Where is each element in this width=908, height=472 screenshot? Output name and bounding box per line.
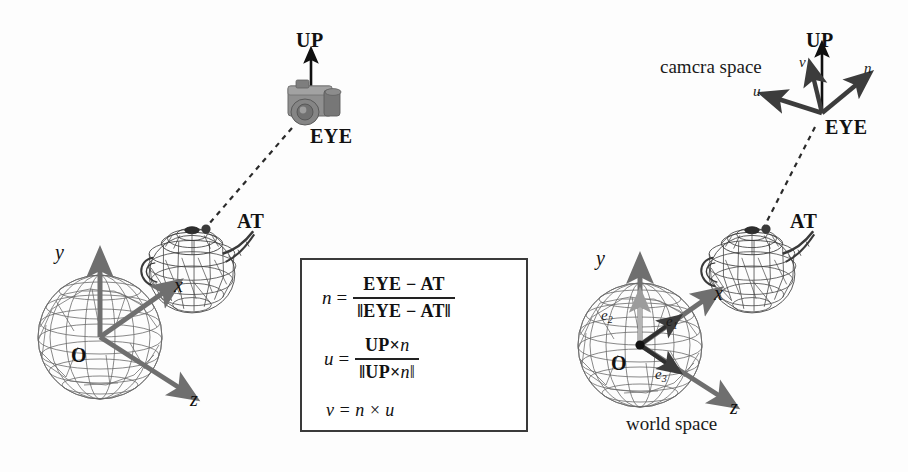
right-axis-x-label: x (714, 283, 723, 303)
formula-box: n = EYE − AT ‖EYE − AT‖ u = UP×n ‖UP×n‖ … (300, 258, 528, 432)
left-eye-label: EYE (310, 126, 353, 146)
fraction-u: UP×n ‖UP×n‖ (355, 335, 419, 383)
vector-u (772, 97, 822, 113)
vector-v-label: v (799, 55, 806, 70)
basis-e3-label: e3 (655, 367, 667, 384)
basis-e1-label: e1 (666, 314, 678, 331)
right-origin-point (635, 340, 644, 349)
vector-n (822, 80, 862, 113)
right-at-label: AT (790, 211, 817, 231)
equation-v: v = n × u (326, 400, 394, 421)
left-origin-label: O (71, 345, 87, 365)
world-space-caption: world space (626, 414, 717, 433)
right-at-point (761, 224, 770, 233)
basis-vector-e3 (640, 345, 672, 367)
left-axis-y-label: y (55, 242, 64, 262)
left-teapot (141, 227, 254, 313)
left-at-label: AT (237, 211, 264, 231)
camera-space-caption: camcra space (660, 57, 762, 76)
left-axis-x-label: x (174, 275, 183, 295)
fraction-n: EYE − AT ‖EYE − AT‖ (353, 274, 455, 322)
right-up-label: UP (806, 30, 834, 50)
left-axis-z-label: z (190, 389, 198, 409)
basis-e2-label: e2 (601, 308, 613, 325)
right-origin-label: O (611, 353, 627, 373)
vector-n-label: n (864, 61, 872, 76)
fraction-numerator: UP×n (361, 335, 413, 358)
left-up-label: UP (296, 30, 324, 50)
equation-u: u = UP×n ‖UP×n‖ (324, 335, 419, 383)
left-at-point (201, 224, 210, 233)
vector-v (812, 72, 822, 113)
camera-model (288, 80, 341, 125)
vector-u-label: u (753, 84, 761, 99)
equation-n: n = EYE − AT ‖EYE − AT‖ (322, 274, 455, 322)
figure-camera-world-space: UP EYE AT O y x z UP camcra space v n u … (0, 0, 908, 472)
fraction-denominator: ‖UP×n‖ (355, 360, 419, 383)
right-axis-z-label: z (730, 397, 738, 417)
right-eye-label: EYE (825, 117, 868, 137)
right-axis-y-label: y (596, 248, 605, 268)
